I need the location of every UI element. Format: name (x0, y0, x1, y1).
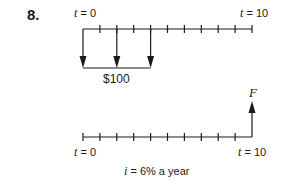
bottom-start-label: t = 0 (74, 145, 96, 160)
interest-rate-label: i = 6% a year (124, 164, 189, 179)
future-value-label: F (249, 85, 257, 101)
payment-arrow-down-icon (147, 29, 154, 68)
future-value-arrow-up-icon (249, 101, 256, 137)
payment-amount-label: $100 (103, 72, 130, 86)
top-timeline (80, 25, 253, 68)
payment-arrow-down-icon (80, 29, 87, 68)
payment-arrow-down-icon (113, 29, 120, 68)
bottom-end-label: t = 10 (238, 145, 266, 160)
top-end-label: t = 10 (240, 6, 268, 21)
top-start-label: t = 0 (74, 6, 96, 21)
bottom-timeline (83, 101, 256, 141)
